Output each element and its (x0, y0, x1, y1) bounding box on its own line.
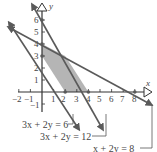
equation-label-1: 3x + 2y = 6 (22, 119, 68, 130)
y-tick-label: −1 (30, 100, 40, 110)
y-tick-label: 5 (34, 27, 39, 37)
x-axis-arrow-icon (144, 87, 152, 97)
graph: −2 −1 1 2 3 4 5 6 7 8 −1 1 2 3 4 5 6 y x… (0, 0, 157, 152)
x-tick-label: 6 (109, 94, 114, 104)
equation-label-2: 3x + 2y = 12 (40, 131, 91, 142)
x-tick-label: −2 (12, 94, 22, 104)
leader-line-2 (92, 114, 106, 136)
x-tick-label: 7 (120, 94, 125, 104)
x-axis-label: x (145, 78, 150, 88)
y-tick-label: 1 (34, 75, 39, 85)
y-axis-arrow-icon (37, 3, 47, 11)
x-tick-label: 1 (51, 94, 56, 104)
line-3x-2y-12 (33, 6, 102, 128)
x-tick-label: 5 (97, 94, 102, 104)
y-tick-label: 3 (34, 51, 39, 61)
x-tick-label: 3 (74, 94, 79, 104)
y-axis-label: y (48, 1, 53, 11)
leader-line-3 (140, 104, 152, 148)
equation-label-3: x + 2y = 8 (93, 143, 134, 152)
